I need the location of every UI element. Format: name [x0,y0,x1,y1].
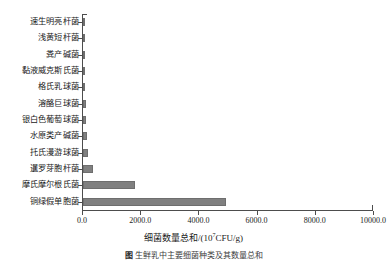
x-axis-title-tail: CFU/g) [215,233,243,243]
category-label: 暹罗芽胞杆菌 [3,164,79,174]
figure-container: 速生明亮杆菌浅黄短杆菌粪产碱菌黏液威克斯氏菌格氏乳球菌溶酪巨球菌银白色葡萄球菌水… [0,0,387,265]
bar-row: 银白色葡萄球菌 [0,112,387,128]
category-label: 黏液威克斯氏菌 [3,66,79,76]
y-axis-tick [78,153,82,154]
y-axis-tick [78,71,82,72]
x-axis-tick-mark [82,211,83,215]
bar [83,149,88,157]
category-label: 格氏乳球菌 [3,82,79,92]
bar-row: 水原类产碱菌 [0,128,387,144]
figure-caption: 图 生鲜乳中主要细菌种类及其数量总和 [0,250,387,263]
bar [83,34,85,42]
category-label: 银白色葡萄球菌 [3,115,79,125]
x-axis-tick-label: 6000.0 [229,216,285,226]
y-axis-tick [78,136,82,137]
category-label: 水原类产碱菌 [3,131,79,141]
y-axis-tick [78,38,82,39]
y-axis-tick [78,55,82,56]
x-axis-tick-mark [373,211,374,215]
category-label: 速生明亮杆菌 [3,17,79,27]
category-label: 摩氏摩尔根氏菌 [3,180,79,190]
x-axis-tick-label: 4000.0 [170,216,226,226]
y-axis-tick [78,185,82,186]
bar [83,100,86,108]
x-axis-title-base: 细菌数量总和/(10 [144,233,213,243]
x-axis-tick-label: 10000.0 [345,216,387,226]
category-label: 粪产碱菌 [3,50,79,60]
figure-caption-tag: 图 [125,251,133,260]
x-axis-tick-label: 0.0 [54,216,110,226]
bar-row: 摩氏摩尔根氏菌 [0,177,387,193]
bar-row: 速生明亮杆菌 [0,14,387,30]
y-axis-tick [78,120,82,121]
bar-row: 格氏乳球菌 [0,79,387,95]
bar-row: 暹罗芽胞杆菌 [0,161,387,177]
bar [83,116,86,124]
bar [83,67,85,75]
bar [83,83,85,91]
x-axis-line [82,210,373,211]
y-axis-tick [78,202,82,203]
x-axis-tick-mark [315,211,316,215]
bar-rows: 速生明亮杆菌浅黄短杆菌粪产碱菌黏液威克斯氏菌格氏乳球菌溶酪巨球菌银白色葡萄球菌水… [0,14,387,210]
bar [83,198,226,206]
x-axis-tick-mark [140,211,141,215]
y-axis-tick [78,169,82,170]
figure-caption-text: 生鲜乳中主要细菌种类及其数量总和 [135,251,263,260]
bar-row: 溶酪巨球菌 [0,96,387,112]
x-axis-tick-label: 8000.0 [287,216,343,226]
bar-row: 浅黄短杆菌 [0,30,387,46]
y-axis-tick [78,22,82,23]
category-label: 铜绿假单胞菌 [3,197,79,207]
x-axis-tick-label: 2000.0 [112,216,168,226]
x-axis-tick-mark [198,211,199,215]
bar [83,181,135,189]
bar [83,51,85,59]
bar-row: 铜绿假单胞菌 [0,194,387,210]
category-label: 溶酪巨球菌 [3,99,79,109]
bar-row: 托氏漫游球菌 [0,145,387,161]
y-axis-tick [78,87,82,88]
bar [83,132,87,140]
bar-row: 黏液威克斯氏菌 [0,63,387,79]
bar [83,165,93,173]
bar [83,18,85,26]
x-axis-title: 细菌数量总和/(107CFU/g) [0,232,387,244]
bar-row: 粪产碱菌 [0,47,387,63]
category-label: 浅黄短杆菌 [3,33,79,43]
category-label: 托氏漫游球菌 [3,148,79,158]
y-axis-tick [78,104,82,105]
x-axis-tick-mark [257,211,258,215]
